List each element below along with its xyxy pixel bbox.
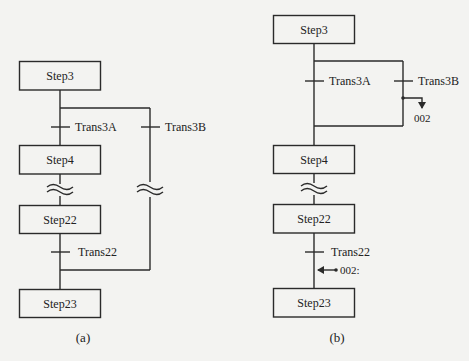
transition-label: Trans3A	[329, 74, 371, 88]
transition-label: Trans3B	[165, 120, 206, 134]
break-mark-icon	[47, 185, 73, 195]
break-mark-icon	[301, 184, 327, 194]
step-label: Step23	[297, 296, 330, 310]
break-mark-icon	[137, 185, 163, 195]
step-label: Step4	[300, 153, 327, 167]
caption-a: (a)	[76, 330, 90, 345]
caption-b: (b)	[329, 330, 344, 345]
transition-label: Trans22	[331, 245, 370, 259]
step-label: Step22	[43, 213, 76, 227]
jump-arrow-icon	[401, 96, 422, 108]
sfc-diagram-canvas: Step3 Step4 Step22 Step23 Trans3A Trans3…	[0, 0, 469, 361]
step-label: Step22	[297, 212, 330, 226]
step-label: Step23	[43, 297, 76, 311]
step-label: Step3	[300, 23, 327, 37]
transition-label: Trans3A	[75, 120, 117, 134]
jump-target-arrow-icon	[318, 268, 338, 272]
transition-label: Trans3B	[418, 74, 459, 88]
diagram-b-labels: Step3 Step4 Step22 Step23 Trans3A Trans3…	[297, 23, 459, 345]
jump-label: 002	[414, 112, 431, 124]
jump-target-label: 002:	[340, 264, 360, 276]
step-label: Step4	[46, 153, 73, 167]
diagram-a-labels: Step3 Step4 Step22 Step23 Trans3A Trans3…	[43, 69, 206, 345]
diagram-a	[20, 62, 164, 318]
transition-label: Trans22	[78, 245, 117, 259]
step-label: Step3	[46, 69, 73, 83]
